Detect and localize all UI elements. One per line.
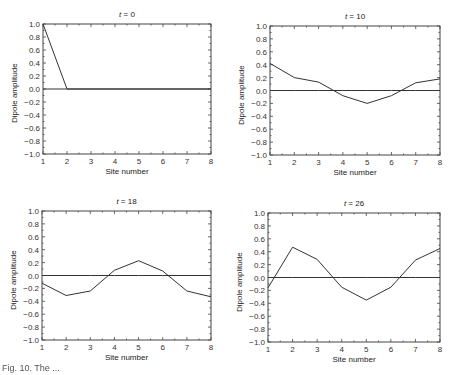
y-tick-label: −0.4 — [24, 111, 40, 120]
y-tick-label: −0.2 — [24, 98, 40, 107]
x-axis-label: Site number — [67, 167, 187, 176]
x-tick-label: 5 — [364, 345, 369, 354]
subplot-t10: 123456781.00.80.60.40.20.0−0.2−0.4−0.6−0… — [270, 26, 440, 155]
y-tick-label: 0.4 — [256, 61, 268, 70]
x-tick-label: 7 — [185, 157, 190, 166]
x-tick-label: 8 — [438, 158, 443, 167]
y-tick-label: 0.2 — [256, 74, 268, 83]
figure-caption: Fig. 10. The ... — [2, 363, 60, 373]
y-tick-label: 1.0 — [254, 209, 266, 218]
x-tick-label: 1 — [40, 343, 45, 352]
x-tick-label: 2 — [64, 343, 69, 352]
y-tick-label: 0.6 — [28, 233, 40, 242]
x-tick-label: 8 — [209, 157, 214, 166]
y-tick-label: 0.2 — [29, 72, 41, 81]
x-tick-label: 8 — [209, 343, 214, 352]
plot-area: 123456781.00.80.60.40.20.0−0.2−0.4−0.6−0… — [270, 26, 440, 155]
subplot-title: t = 18 — [77, 197, 177, 206]
y-axis-label: Dipole amplitude — [237, 65, 246, 125]
subplot-t18: 123456781.00.80.60.40.20.0−0.2−0.4−0.6−0… — [42, 211, 211, 340]
subplot-title: t = 0 — [77, 10, 177, 19]
title-value: = 10 — [347, 12, 365, 21]
x-tick-label: 8 — [438, 345, 443, 354]
y-tick-label: −1.0 — [24, 150, 40, 159]
y-axis-label: Dipole amplitude — [235, 252, 244, 312]
x-tick-label: 7 — [413, 345, 418, 354]
x-tick-label: 6 — [389, 345, 394, 354]
y-tick-label: 0.2 — [254, 261, 266, 270]
x-tick-label: 4 — [112, 343, 117, 352]
y-tick-label: 0.8 — [28, 220, 40, 229]
x-tick-label: 4 — [341, 158, 346, 167]
y-tick-label: −0.6 — [251, 125, 267, 134]
y-tick-label: −0.8 — [24, 137, 40, 146]
subplot-title: t = 10 — [305, 12, 405, 21]
x-tick-label: 7 — [413, 158, 418, 167]
x-tick-label: 2 — [65, 157, 70, 166]
y-tick-label: 0.8 — [29, 33, 41, 42]
amplitude-line — [270, 63, 440, 103]
y-axis-label: Dipole amplitude — [9, 250, 18, 310]
y-tick-label: −1.0 — [251, 151, 267, 160]
amplitude-line — [42, 261, 211, 297]
x-tick-label: 6 — [161, 157, 166, 166]
plot-area: 123456781.00.80.60.40.20.0−0.2−0.4−0.6−0… — [42, 211, 211, 340]
subplot-t0: 123456781.00.80.60.40.20.0−0.2−0.4−0.6−0… — [43, 24, 211, 154]
y-tick-label: −0.2 — [251, 99, 267, 108]
y-tick-label: −0.6 — [249, 312, 265, 321]
y-tick-label: 0.6 — [256, 48, 268, 57]
x-tick-label: 4 — [113, 157, 118, 166]
y-tick-label: −0.2 — [249, 286, 265, 295]
x-tick-label: 3 — [316, 158, 321, 167]
y-tick-label: 0.8 — [254, 222, 266, 231]
x-tick-label: 6 — [389, 158, 394, 167]
subplot-t26: 123456781.00.80.60.40.20.0−0.2−0.4−0.6−0… — [268, 213, 440, 342]
y-tick-label: −0.6 — [23, 310, 39, 319]
x-tick-label: 6 — [160, 343, 165, 352]
x-tick-label: 7 — [185, 343, 190, 352]
amplitude-line — [43, 24, 211, 89]
y-tick-label: −0.4 — [251, 112, 267, 121]
amplitude-line — [268, 247, 440, 300]
y-tick-label: 0.6 — [29, 46, 41, 55]
x-tick-label: 1 — [266, 345, 271, 354]
y-tick-label: −0.8 — [249, 325, 265, 334]
x-axis-label: Site number — [295, 168, 415, 177]
y-tick-label: 0.0 — [28, 272, 40, 281]
y-tick-label: 0.0 — [256, 87, 268, 96]
y-tick-label: −1.0 — [249, 338, 265, 347]
subplot-title: t = 26 — [304, 199, 404, 208]
title-value: = 18 — [119, 197, 137, 206]
y-tick-label: 1.0 — [29, 20, 41, 29]
x-tick-label: 2 — [292, 158, 297, 167]
plot-area: 123456781.00.80.60.40.20.0−0.2−0.4−0.6−0… — [268, 213, 440, 342]
x-tick-label: 5 — [136, 343, 141, 352]
y-tick-label: −1.0 — [23, 336, 39, 345]
y-tick-label: 0.2 — [28, 259, 40, 268]
plot-area: 123456781.00.80.60.40.20.0−0.2−0.4−0.6−0… — [43, 24, 211, 154]
x-tick-label: 3 — [89, 157, 94, 166]
x-tick-label: 2 — [290, 345, 295, 354]
x-tick-label: 1 — [268, 158, 273, 167]
y-tick-label: −0.4 — [23, 297, 39, 306]
y-tick-label: −0.4 — [249, 299, 265, 308]
x-tick-label: 5 — [137, 157, 142, 166]
y-tick-label: 0.4 — [28, 246, 40, 255]
y-tick-label: −0.6 — [24, 124, 40, 133]
y-tick-label: 0.0 — [29, 85, 41, 94]
y-tick-label: 1.0 — [256, 22, 268, 31]
y-tick-label: 0.8 — [256, 35, 268, 44]
y-tick-label: 1.0 — [28, 207, 40, 216]
x-axis-label: Site number — [294, 355, 414, 364]
x-tick-label: 3 — [88, 343, 93, 352]
x-tick-label: 5 — [365, 158, 370, 167]
y-tick-label: −0.2 — [23, 284, 39, 293]
x-axis-label: Site number — [67, 353, 187, 362]
y-tick-label: 0.4 — [29, 59, 41, 68]
title-value: = 0 — [121, 10, 135, 19]
x-tick-label: 1 — [41, 157, 46, 166]
y-tick-label: −0.8 — [23, 323, 39, 332]
y-tick-label: −0.8 — [251, 138, 267, 147]
y-tick-label: 0.6 — [254, 235, 266, 244]
title-value: = 26 — [346, 199, 364, 208]
